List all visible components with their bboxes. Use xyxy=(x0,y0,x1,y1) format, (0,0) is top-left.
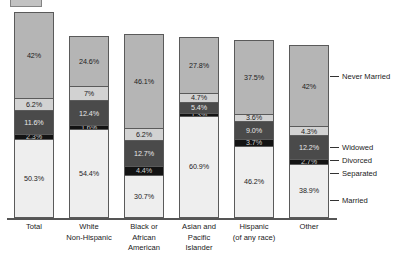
segment-value-label: 3.7% xyxy=(246,140,262,147)
bar-hispanic[interactable]: 37.5% 3.6% 9.0% 3.7% 46.2% xyxy=(234,40,274,218)
segment-value-label: 4.4% xyxy=(136,167,152,174)
segment-married[interactable]: 46.2% xyxy=(235,147,273,217)
segment-value-label: 46.1% xyxy=(134,78,154,85)
chart-legend: Never Married Widowed Divorced Separated… xyxy=(330,0,407,268)
segment-value-label: 4.7% xyxy=(191,94,207,101)
leader-line-icon xyxy=(330,147,339,148)
segment-value-label: 24.6% xyxy=(79,58,99,65)
cropped-title-remnant xyxy=(10,0,42,7)
segment-value-label: 42% xyxy=(302,83,316,90)
stacked-bar-chart: 42% 6.2% 11.6% 2.3% 50.3% 24.6% 7% xyxy=(0,0,407,268)
bar-asian-pacific-islander[interactable]: 27.8% 4.7% 5.4% 1.3% 60.9% xyxy=(179,37,219,218)
segment-value-label: 30.7% xyxy=(134,193,154,200)
leader-line-icon xyxy=(330,76,339,77)
segment-widowed[interactable]: 6.2% xyxy=(15,99,53,112)
segment-value-label: 27.8% xyxy=(189,62,209,69)
segment-divorced[interactable]: 9.0% xyxy=(235,122,273,140)
legend-item-widowed[interactable]: Widowed xyxy=(330,143,373,152)
segment-never-married[interactable]: 42% xyxy=(15,13,53,99)
bar-total[interactable]: 42% 6.2% 11.6% 2.3% 50.3% xyxy=(14,12,54,218)
segment-value-label: 11.6% xyxy=(24,119,43,126)
segment-separated[interactable]: 3.7% xyxy=(235,140,273,147)
segment-value-label: 60.9% xyxy=(189,163,209,170)
segment-value-label: 12.7% xyxy=(134,150,154,157)
plot-area: 42% 6.2% 11.6% 2.3% 50.3% 24.6% 7% xyxy=(0,10,340,220)
segment-separated[interactable]: 4.4% xyxy=(125,167,163,176)
segment-widowed[interactable]: 6.2% xyxy=(125,129,163,142)
segment-never-married[interactable]: 42% xyxy=(290,46,328,127)
segment-widowed[interactable]: 7% xyxy=(70,87,108,101)
segment-widowed[interactable]: 3.6% xyxy=(235,115,273,122)
bar-white-non-hispanic[interactable]: 24.6% 7% 12.4% 1.6% 54.4% xyxy=(69,36,109,218)
segment-divorced[interactable]: 12.4% xyxy=(70,101,108,126)
bar-other[interactable]: 42% 4.3% 12.2% 2.7% 38.9% xyxy=(289,45,329,218)
x-label-line: Islander xyxy=(165,243,233,254)
segment-value-label: 6.2% xyxy=(26,101,42,108)
legend-label: Widowed xyxy=(342,143,373,152)
segment-married[interactable]: 60.9% xyxy=(180,117,218,217)
segment-never-married[interactable]: 46.1% xyxy=(125,35,163,129)
segment-value-label: 12.4% xyxy=(79,110,99,117)
legend-label: Married xyxy=(342,196,368,205)
leader-line-icon xyxy=(330,200,339,201)
legend-item-never-married[interactable]: Never Married xyxy=(330,72,390,81)
segment-value-label: 46.2% xyxy=(244,178,264,185)
segment-divorced[interactable]: 5.4% xyxy=(180,103,218,114)
segment-widowed[interactable]: 4.7% xyxy=(180,94,218,103)
segment-never-married[interactable]: 24.6% xyxy=(70,37,108,87)
segment-divorced[interactable]: 12.7% xyxy=(125,141,163,167)
leader-line-icon xyxy=(330,160,339,161)
segment-value-label: 6.2% xyxy=(136,131,152,138)
segment-married[interactable]: 30.7% xyxy=(125,176,163,217)
legend-label: Separated xyxy=(342,169,377,178)
segment-divorced[interactable]: 12.2% xyxy=(290,136,328,160)
legend-label: Divorced xyxy=(342,156,372,165)
x-label-line: (of any race) xyxy=(220,233,288,244)
x-axis-line xyxy=(7,218,337,220)
segment-never-married[interactable]: 37.5% xyxy=(235,41,273,115)
segment-value-label: 37.5% xyxy=(244,74,264,81)
segment-value-label: 12.2% xyxy=(299,144,319,151)
segment-value-label: 4.3% xyxy=(301,128,317,135)
segment-never-married[interactable]: 27.8% xyxy=(180,38,218,94)
segment-married[interactable]: 38.9% xyxy=(290,165,328,217)
x-axis-category-labels: Total White Non-Hispanic Black or Africa… xyxy=(0,222,340,268)
segment-value-label: 42% xyxy=(27,52,41,59)
segment-value-label: 3.6% xyxy=(246,115,262,122)
segment-value-label: 38.9% xyxy=(299,187,319,194)
segment-value-label: 54.4% xyxy=(79,170,99,177)
segment-widowed[interactable]: 4.3% xyxy=(290,127,328,136)
leader-line-icon xyxy=(330,173,339,174)
segment-value-label: 9.0% xyxy=(246,127,262,134)
bar-black-african-american[interactable]: 46.1% 6.2% 12.7% 4.4% 30.7% xyxy=(124,34,164,218)
segment-divorced[interactable]: 11.6% xyxy=(15,111,53,135)
legend-item-married[interactable]: Married xyxy=(330,196,368,205)
segment-value-label: 5.4% xyxy=(191,104,207,111)
segment-married[interactable]: 54.4% xyxy=(70,130,108,217)
segment-value-label: 50.3% xyxy=(24,175,44,182)
segment-married[interactable]: 50.3% xyxy=(15,140,53,217)
segment-value-label: 7% xyxy=(84,90,94,97)
legend-item-divorced[interactable]: Divorced xyxy=(330,156,372,165)
legend-item-separated[interactable]: Separated xyxy=(330,169,377,178)
legend-label: Never Married xyxy=(342,72,390,81)
